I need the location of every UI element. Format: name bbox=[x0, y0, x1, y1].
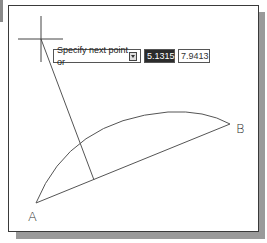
dynamic-input-prompt[interactable]: Specify next point or bbox=[53, 49, 141, 63]
prompt-text: Specify next point or bbox=[57, 44, 129, 68]
chord-line-ab[interactable] bbox=[36, 124, 230, 203]
point-label-b: B bbox=[236, 121, 245, 136]
down-arrow-icon[interactable] bbox=[129, 52, 137, 61]
dynamic-input-tooltip: Specify next point or 5.1315 7.9413 bbox=[53, 49, 210, 63]
point-label-a: A bbox=[28, 209, 37, 224]
arc-ab[interactable] bbox=[36, 112, 230, 203]
length-input[interactable]: 5.1315 bbox=[144, 49, 175, 63]
drawing-canvas[interactable] bbox=[0, 0, 267, 243]
angle-input[interactable]: 7.9413 bbox=[178, 49, 210, 63]
